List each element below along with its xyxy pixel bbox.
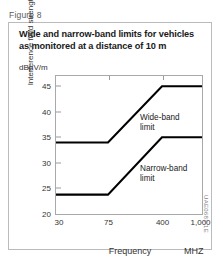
limit-curves [56,76,202,214]
x-axis-unit: MHZ [184,246,204,256]
document-code: UAE0681-1E [203,195,209,233]
y-axis-title: Interference field strength [26,0,35,110]
plot-area: Interference field strength 45 40 35 30 … [55,75,203,215]
wide-band-label-line2: limit [140,123,155,132]
narrow-band-label-line2: limit [140,174,155,183]
wide-band-limit-label: Wide-band limit [140,113,180,132]
chart-title: Wide and narrow-band limits for vehicles… [19,29,204,52]
y-tick-label-30: 30 [42,158,56,167]
figure-box: Wide and narrow-band limits for vehicles… [8,22,212,250]
x-axis-title: Frequency [56,246,204,256]
x-tick-label-400: 400 [156,214,169,227]
x-tick-label-30: 30 [54,214,63,227]
x-tick-label-75: 75 [104,214,113,227]
y-tick-label-45: 45 [42,82,56,91]
narrow-band-limit-label: Narrow-band limit [140,164,187,183]
y-tick-label-40: 40 [42,107,56,116]
y-tick-label-35: 35 [42,133,56,142]
wide-band-curve [56,86,202,142]
y-tick-label-25: 25 [42,184,56,193]
wide-band-label-line1: Wide-band [140,113,180,122]
narrow-band-label-line1: Narrow-band [140,164,187,173]
